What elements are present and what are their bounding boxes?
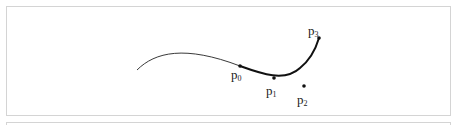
control-point-p1 (272, 76, 276, 80)
label-p0: p0 (231, 68, 242, 83)
label-p1: p1 (266, 84, 277, 99)
curve-thick-segment (240, 38, 319, 76)
curve-thin-segment (137, 53, 240, 70)
bezier-diagram (0, 0, 464, 125)
label-p3: p3 (308, 24, 319, 39)
control-point-p2 (302, 84, 306, 88)
label-p2: p2 (297, 93, 308, 108)
